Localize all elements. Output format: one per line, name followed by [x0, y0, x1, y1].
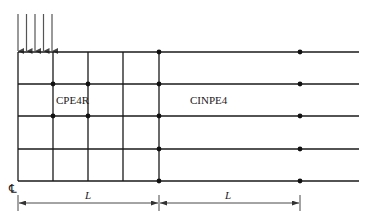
node-dot-icon	[298, 147, 303, 152]
fem-mesh-diagram	[0, 0, 369, 219]
cpe4r-region-label: CPE4R	[56, 95, 89, 106]
node-dot-icon	[51, 114, 56, 119]
node-dot-icon	[157, 114, 162, 119]
dimension-label-right: L	[225, 190, 231, 201]
node-dot-icon	[157, 82, 162, 87]
node-dot-icon	[51, 82, 56, 87]
dimension-lines	[18, 195, 300, 211]
node-dot-icon	[298, 179, 303, 184]
node-dot-icon	[157, 147, 162, 152]
dimension-label-left: L	[85, 190, 91, 201]
node-dot-icon	[157, 179, 162, 184]
node-dot-icon	[86, 114, 91, 119]
node-dot-icon	[298, 50, 303, 55]
infinite-element-lines	[159, 52, 359, 181]
node-dot-icon	[298, 114, 303, 119]
node-dot-icon	[86, 82, 91, 87]
node-dot-icon	[157, 50, 162, 55]
distributed-load-arrows	[18, 14, 52, 51]
centerline-symbol: ℄	[9, 183, 17, 195]
node-dot-icon	[298, 82, 303, 87]
cinpe4-region-label: CINPE4	[190, 95, 227, 106]
